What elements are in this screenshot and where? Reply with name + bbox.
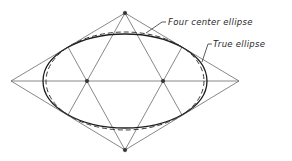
diagram-canvas: Four center ellipse True ellipse [0, 0, 292, 161]
ellipse-construction-figure: Four center ellipse True ellipse [0, 0, 292, 161]
true-ellipse-leader-line [202, 44, 212, 62]
construction-line-bottom-left [68, 47, 125, 150]
construction-line-top-left [68, 13, 125, 115]
bottom-vertex-point [123, 148, 127, 152]
left-center-point [85, 79, 89, 83]
true-ellipse-label: True ellipse [213, 39, 265, 49]
right-center-point [161, 79, 165, 83]
top-vertex-point [123, 11, 127, 15]
four-center-ellipse-label: Four center ellipse [168, 17, 253, 27]
construction-line-bottom-right [125, 47, 182, 150]
